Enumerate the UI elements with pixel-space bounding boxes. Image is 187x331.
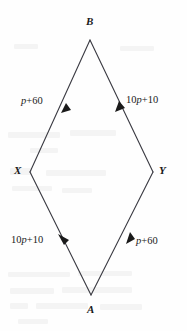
edge-label-a-x: 10p+10 [11,235,43,246]
edge-label-a-y-constant: 60 [147,235,158,246]
geometry-figure: B X Y A p+60 10p+10 10p+10 p+60 [0,0,187,331]
edge-label-y-b-coefficient: 10 [126,94,137,105]
edge-label-a-y: p+60 [136,236,158,247]
arrowhead-a-to-x [58,234,69,245]
vertex-label-b: B [86,16,93,27]
edge-label-y-b: 10p+10 [126,95,158,106]
vertex-label-y: Y [159,165,166,176]
edge-label-x-b: p+60 [21,96,43,107]
side-a-y [91,172,153,295]
edge-label-a-x-coefficient: 10 [11,234,22,245]
arrowhead-x-to-b [61,103,71,113]
vertex-label-x: X [14,165,21,176]
edge-label-x-b-constant: 60 [32,95,43,106]
edge-label-y-b-constant: 10 [148,94,159,105]
vertex-label-a: A [87,304,94,315]
edge-label-a-x-constant: 10 [33,234,44,245]
arrowhead-a-to-y [126,232,135,244]
